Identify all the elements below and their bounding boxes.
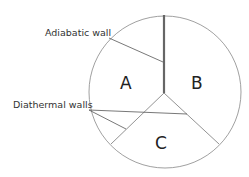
region-a-label: A: [120, 73, 132, 93]
diathermal-leader-line-1: [89, 110, 187, 114]
adiabatic-leader-line: [109, 38, 163, 62]
diathermal-label: Diathermal walls: [13, 99, 93, 110]
adiabatic-label: Adiabatic wall: [45, 27, 111, 38]
diagram-canvas: Adiabatic wall Diathermal walls A B C: [0, 0, 249, 177]
region-c-label: C: [155, 133, 167, 153]
diathermal-wall-bc: [164, 93, 219, 144]
region-b-label: B: [191, 73, 203, 93]
